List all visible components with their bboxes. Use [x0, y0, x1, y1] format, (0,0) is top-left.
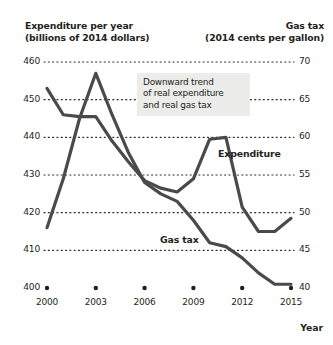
x-tick-2003: 2003 — [79, 297, 113, 307]
right-tick-45: 45 — [299, 244, 321, 254]
left-tick-430: 430 — [18, 169, 40, 179]
x-tick-2000: 2000 — [30, 297, 64, 307]
annotation-line3: and real gas tax — [143, 100, 245, 111]
left-tick-420: 420 — [18, 207, 40, 217]
chart-container: Expenditure per year (billions of 2014 d… — [0, 0, 333, 345]
x-tick-2009: 2009 — [176, 297, 210, 307]
x-axis-title: Year — [300, 322, 323, 333]
series-label-expenditure: Expenditure — [218, 148, 281, 159]
x-tick-2006: 2006 — [128, 297, 162, 307]
right-tick-55: 55 — [299, 169, 321, 179]
right-tick-60: 60 — [299, 131, 321, 141]
left-tick-410: 410 — [18, 244, 40, 254]
right-tick-50: 50 — [299, 207, 321, 217]
annotation-line2: of real expenditure — [143, 88, 245, 99]
left-tick-440: 440 — [18, 131, 40, 141]
right-tick-70: 70 — [299, 56, 321, 66]
right-tick-40: 40 — [299, 282, 321, 292]
left-tick-460: 460 — [18, 56, 40, 66]
plot-area — [0, 0, 333, 345]
x-tick-2012: 2012 — [225, 297, 259, 307]
annotation-line1: Downward trend — [143, 77, 245, 88]
series-label-gas-tax: Gas tax — [160, 234, 199, 245]
annotation-box: Downward trend of real expenditure and r… — [137, 73, 250, 116]
left-tick-400: 400 — [18, 282, 40, 292]
left-tick-450: 450 — [18, 94, 40, 104]
x-tick-2015: 2015 — [274, 297, 308, 307]
right-tick-65: 65 — [299, 94, 321, 104]
